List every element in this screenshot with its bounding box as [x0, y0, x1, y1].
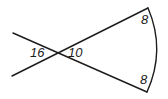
label-left-segment-16: 16 — [30, 46, 44, 59]
geometry-figure: 16 10 8 8 — [0, 0, 168, 99]
label-right-segment-10: 10 — [68, 46, 82, 59]
closing-arc — [147, 8, 157, 92]
label-arc-bottom-8: 8 — [140, 73, 147, 86]
label-arc-top-8: 8 — [141, 13, 148, 26]
